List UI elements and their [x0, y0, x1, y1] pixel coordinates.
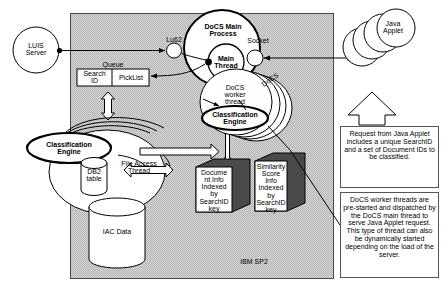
db2-table-label: DB2 table [81, 168, 107, 182]
java-applet-label: Java Applet [372, 20, 414, 34]
docs-main-process-label: DoCS Main Process [196, 23, 250, 37]
luis-server-label: LUIS Server [16, 42, 56, 56]
request-note: Request from Java Applet includes a uniq… [340, 126, 439, 188]
ibm-sp2-label: IBM SP2 [232, 258, 276, 265]
diagram-canvas: LUIS Server Lu62 Socket Queue Search ID … [0, 0, 445, 300]
worker-classification-engine-label: Classification Engine [205, 111, 265, 125]
iac-data-label: IAC Data [95, 228, 139, 235]
socket-label: Socket [236, 37, 280, 44]
worker-thread-note: DoCS worker threads are pre-started and … [340, 192, 439, 278]
queue-label: Queue [93, 61, 133, 68]
queue-cell-search-id: Search ID [78, 70, 111, 84]
file-access-thread-label: File Access Thread [115, 160, 163, 174]
document-info-block-label: Docume nt Info Indexed by SearchID key [197, 169, 231, 212]
main-thread-label: Main Thread [209, 55, 243, 69]
classification-engine-label: Classification Engine [39, 141, 99, 155]
similarity-score-block-label: Similarity Score Info Indexed by SearchI… [256, 163, 286, 213]
lu62-label: Lu62 [156, 36, 192, 43]
queue-cell-picklist: PickList [113, 74, 149, 81]
docs-worker-thread-label: DoCS worker thread [218, 84, 252, 105]
